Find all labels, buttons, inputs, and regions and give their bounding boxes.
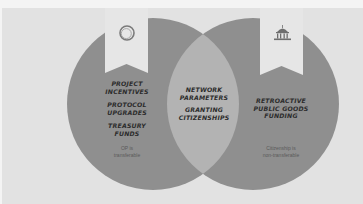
left-item-project-incentives: PROJECT INCENTIVES	[103, 80, 151, 95]
right-item-retroactive-public-goods-funding: RETROACTIVE PUBLIC GOODS FUNDING	[252, 97, 310, 120]
left-item-treasury-funds: TREASURY FUNDS	[103, 122, 151, 137]
left-item-protocol-upgrades: PROTOCOL UPGRADES	[103, 101, 151, 116]
center-item-network-parameters: NETWORK PARAMETERS	[178, 86, 230, 101]
center-item-granting-citizenships: GRANTING CITIZENSHIPS	[178, 106, 230, 121]
right-banner	[260, 8, 303, 75]
right-note: Citizenship is non-transferable	[252, 145, 310, 158]
left-note: OP is transferable	[103, 145, 151, 158]
